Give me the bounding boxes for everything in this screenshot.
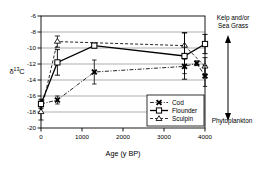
legend-label-sculpin: Sculpin: [172, 116, 193, 122]
chart-figure: -6 -8 -10 -12 -14 -16 -18 -20 0 1000 200…: [0, 0, 259, 169]
marker-sculpin-1: [54, 38, 60, 43]
annotation-kelp-line2: Sea Grass: [218, 22, 248, 29]
marker-flounder-1: [55, 60, 60, 65]
y-axis-title: δ13C: [0, 66, 39, 76]
marker-sculpin-0: [38, 109, 44, 114]
marker-flounder-3: [182, 53, 187, 58]
x-tick-label-2000: 2000: [113, 134, 133, 140]
marker-flounder-4: [202, 41, 207, 46]
y-tick-label-minus16: -16: [22, 93, 36, 99]
y-tick-label-minus18: -18: [22, 109, 36, 115]
y-axis-title-element: C: [19, 67, 24, 76]
y-tick-label-minus20: -20: [22, 125, 36, 131]
annotation-kelp-line1: Kelp and/or: [217, 14, 250, 21]
x-tick-label-3000: 3000: [154, 134, 174, 140]
x-tick-label-1000: 1000: [72, 134, 92, 140]
x-tick-label-4000: 4000: [195, 134, 215, 140]
marker-flounder-0: [38, 101, 43, 106]
marker-flounder-2: [92, 43, 97, 48]
y-tick-label-minus10: -10: [22, 45, 36, 51]
x-axis-ticks: [41, 128, 205, 132]
y-tick-label-minus6: -6: [25, 13, 36, 19]
x-axis-title: Age (y BP): [81, 150, 165, 157]
y-tick-label-minus14: -14: [22, 77, 36, 83]
legend-label-flounder: Flounder: [172, 108, 197, 114]
ecology-gradient-arrow: [225, 35, 231, 121]
annotation-kelp-seagrass: Kelp and/orSea Grass: [208, 14, 258, 30]
x-tick-label-0: 0: [35, 134, 47, 140]
legend-label-cod: Cod: [172, 100, 184, 106]
arrow-head-up: [225, 35, 231, 43]
y-tick-label-minus8: -8: [25, 29, 36, 35]
annotation-phytoplankton: Phytoplankton: [206, 117, 258, 125]
